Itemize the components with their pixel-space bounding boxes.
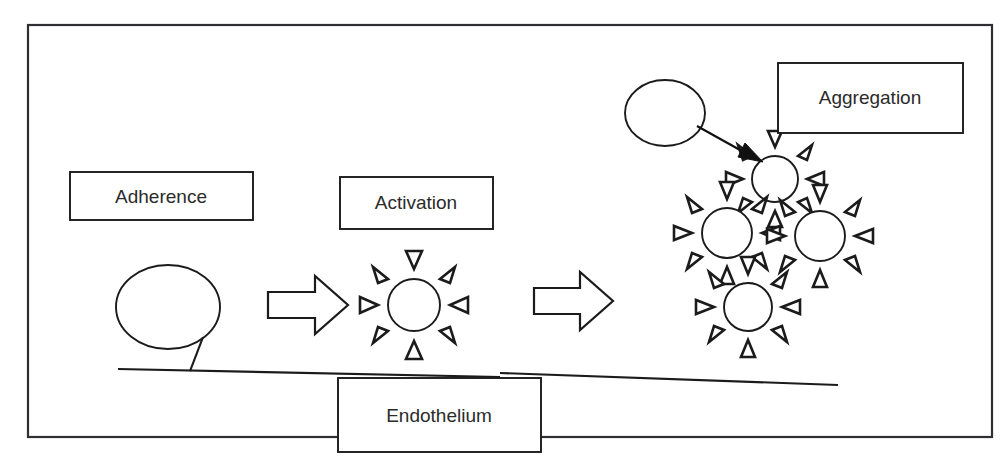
spike-se <box>798 198 812 213</box>
activation-label-box[interactable]: Activation <box>340 177 493 229</box>
spike-sw <box>709 326 724 342</box>
aggregate-platelet-bottom-body <box>724 283 772 331</box>
spike-ne <box>798 145 812 160</box>
spike-ne <box>845 200 860 216</box>
spike-ne <box>440 267 455 283</box>
spike-n <box>720 182 734 199</box>
spike-w <box>674 226 692 240</box>
diagram-canvas: Adherence Activation Aggregation Endothe… <box>0 0 1008 473</box>
spike-s <box>768 211 782 227</box>
spike-sw <box>780 256 795 272</box>
aggregation-legend-platelet <box>625 80 705 146</box>
spike-w <box>360 297 378 313</box>
platelet-aggregate-cluster <box>674 131 873 357</box>
spike-nw <box>687 197 702 213</box>
spike-n <box>406 251 422 269</box>
endothelium-line-right <box>500 373 838 385</box>
aggregate-platelet-top-body <box>752 156 798 202</box>
activation-label-text: Activation <box>375 192 457 213</box>
spike-e <box>782 300 800 314</box>
spike-s <box>813 270 827 287</box>
activated-platelet-spiky <box>360 251 468 359</box>
endothelium-line-left <box>118 369 500 377</box>
activated-platelet-body <box>388 279 440 331</box>
aggregate-platelet-right-body <box>795 211 845 261</box>
spike-ne <box>752 197 767 213</box>
spike-nw <box>373 267 388 283</box>
block-arrow-adherence-to-activation <box>268 276 348 334</box>
spike-e <box>450 297 468 313</box>
spike-se <box>845 256 860 272</box>
aggregate-platelet-left-body <box>702 208 752 258</box>
endothelium-label-box[interactable]: Endothelium <box>338 378 541 452</box>
spike-s <box>741 340 755 357</box>
aggregation-label-box[interactable]: Aggregation <box>778 63 963 133</box>
endothelium-label-text: Endothelium <box>386 405 492 426</box>
platelet-process-diagram: Adherence Activation Aggregation Endothe… <box>0 0 1008 473</box>
block-arrow-activation-to-aggregation <box>534 272 613 330</box>
spike-se <box>440 327 455 343</box>
spike-se <box>772 326 787 342</box>
adherence-label-box[interactable]: Adherence <box>70 172 253 220</box>
spike-w <box>696 300 714 314</box>
spike-sw <box>687 253 702 269</box>
spike-n <box>813 185 827 202</box>
spike-nw <box>780 200 795 216</box>
resting-platelet-ellipse <box>116 265 220 349</box>
spike-ne <box>772 272 787 288</box>
adherence-label-text: Adherence <box>115 186 207 207</box>
spike-sw <box>373 327 388 343</box>
spike-e <box>855 229 873 243</box>
aggregate-platelet-bottom <box>696 257 800 357</box>
spike-s <box>406 341 422 359</box>
spike-n <box>741 257 755 274</box>
aggregation-label-text: Aggregation <box>819 87 921 108</box>
